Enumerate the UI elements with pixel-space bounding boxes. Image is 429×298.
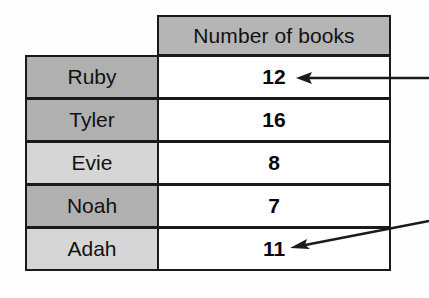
row-label-evie: Evie — [25, 141, 159, 185]
table-row: Adah 11 — [25, 227, 391, 271]
row-value-tyler: 16 — [157, 98, 391, 142]
table-row: Evie 8 — [25, 141, 391, 185]
row-value-adah: 11 — [157, 227, 391, 271]
row-value-noah: 7 — [157, 184, 391, 228]
column-header-number-of-books: Number of books — [157, 15, 391, 56]
figure-canvas: Number of books Ruby 12 Tyler 16 Evie 8 … — [0, 0, 429, 298]
table-row: Noah 7 — [25, 184, 391, 228]
row-value-evie: 8 — [157, 141, 391, 185]
row-value-ruby: 12 — [157, 55, 391, 99]
books-table: Number of books Ruby 12 Tyler 16 Evie 8 … — [25, 15, 391, 273]
table-row: Tyler 16 — [25, 98, 391, 142]
row-label-adah: Adah — [25, 227, 159, 271]
row-label-ruby: Ruby — [25, 55, 159, 99]
row-label-noah: Noah — [25, 184, 159, 228]
table-row: Ruby 12 — [25, 55, 391, 99]
row-label-tyler: Tyler — [25, 98, 159, 142]
